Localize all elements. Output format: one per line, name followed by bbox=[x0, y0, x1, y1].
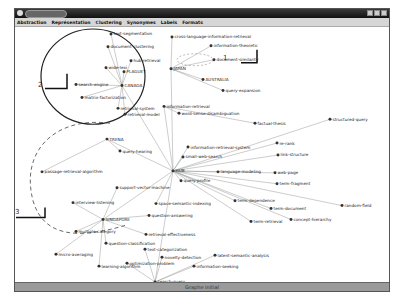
graph-node[interactable]: retrieval-model bbox=[124, 112, 160, 117]
graph-node[interactable]: language-modeling bbox=[217, 169, 262, 174]
graph-node[interactable]: cross-language-information-retrieval bbox=[171, 34, 252, 39]
node-dot-icon[interactable] bbox=[55, 253, 58, 256]
graph-node[interactable]: factual-thesis bbox=[254, 121, 286, 126]
maximize-button[interactable] bbox=[374, 10, 380, 16]
menu-formats[interactable]: Formats bbox=[182, 20, 203, 25]
graph-node[interactable]: micro-averaging bbox=[55, 252, 94, 257]
graph-node[interactable]: search-engine bbox=[75, 82, 109, 87]
graph-node[interactable]: query-hearing bbox=[119, 149, 153, 154]
node-dot-icon[interactable] bbox=[161, 256, 164, 259]
node-dot-icon[interactable] bbox=[163, 105, 166, 108]
graph-node[interactable]: information-theoretic bbox=[210, 43, 259, 48]
menu-abstraction[interactable]: Abstraction bbox=[17, 20, 46, 25]
node-dot-icon[interactable] bbox=[130, 59, 133, 62]
node-dot-icon[interactable] bbox=[222, 89, 225, 92]
node-dot-icon[interactable] bbox=[144, 248, 147, 251]
graph-node[interactable]: word-sense-disambiguation bbox=[178, 111, 240, 116]
node-dot-icon[interactable] bbox=[270, 207, 273, 210]
node-dot-icon[interactable] bbox=[170, 67, 173, 70]
graph-node[interactable]: PLAGUEY bbox=[123, 69, 147, 74]
graph-node[interactable]: JAPAN bbox=[170, 66, 186, 71]
graph-node[interactable]: TRENA bbox=[106, 137, 124, 142]
graph-node[interactable]: small-web-search bbox=[182, 154, 223, 159]
graph-node[interactable]: latent-semantic-analysis bbox=[214, 253, 269, 258]
node-dot-icon[interactable] bbox=[172, 169, 175, 172]
graph-node[interactable]: SINGAPORE bbox=[102, 217, 131, 222]
graph-node[interactable]: question-answering bbox=[148, 213, 194, 218]
graph-node[interactable]: space-semantic-indexing bbox=[155, 201, 212, 206]
node-dot-icon[interactable] bbox=[254, 122, 257, 125]
graph-node[interactable]: information-seeking bbox=[193, 264, 239, 269]
node-dot-icon[interactable] bbox=[180, 179, 183, 182]
node-dot-icon[interactable] bbox=[105, 66, 108, 69]
node-dot-icon[interactable] bbox=[98, 265, 101, 268]
node-dot-icon[interactable] bbox=[126, 262, 129, 265]
close-button[interactable] bbox=[381, 10, 387, 16]
graph-node[interactable]: document-similarity bbox=[213, 57, 259, 62]
node-dot-icon[interactable] bbox=[145, 233, 148, 236]
node-dot-icon[interactable] bbox=[329, 118, 332, 121]
node-dot-icon[interactable] bbox=[75, 230, 78, 233]
menu-labels[interactable]: Labels bbox=[161, 20, 177, 25]
node-dot-icon[interactable] bbox=[213, 58, 216, 61]
node-dot-icon[interactable] bbox=[75, 83, 78, 86]
node-dot-icon[interactable] bbox=[277, 154, 280, 157]
node-dot-icon[interactable] bbox=[41, 170, 44, 173]
node-dot-icon[interactable] bbox=[202, 78, 205, 81]
graph-node[interactable]: text-categorization bbox=[144, 247, 188, 252]
menu-synonymes[interactable]: Synonymes bbox=[127, 20, 156, 25]
menu-clustering[interactable]: Clustering bbox=[96, 20, 122, 25]
graph-node[interactable]: link-structure bbox=[277, 153, 309, 158]
node-dot-icon[interactable] bbox=[276, 142, 279, 145]
graph-node[interactable]: multiple-category bbox=[75, 229, 117, 234]
node-dot-icon[interactable] bbox=[124, 113, 127, 116]
node-dot-icon[interactable] bbox=[102, 218, 105, 221]
graph-node[interactable]: retrieval-effectiveness bbox=[145, 232, 196, 237]
node-dot-icon[interactable] bbox=[121, 84, 124, 87]
node-dot-icon[interactable] bbox=[107, 45, 110, 48]
graph-node[interactable]: term-dependence bbox=[234, 198, 276, 203]
graph-node[interactable]: information-retrieval-system bbox=[187, 145, 251, 150]
node-dot-icon[interactable] bbox=[119, 150, 122, 153]
node-dot-icon[interactable] bbox=[155, 202, 158, 205]
node-dot-icon[interactable] bbox=[81, 96, 84, 99]
graph-canvas[interactable]: 2 1 3 text-segmentationdocument-clusteri… bbox=[15, 27, 389, 283]
graph-node[interactable]: optimization-problem bbox=[126, 261, 175, 266]
node-dot-icon[interactable] bbox=[274, 171, 277, 174]
graph-node[interactable]: matrix-factorization bbox=[81, 95, 127, 100]
graph-node[interactable]: re-rank bbox=[276, 141, 296, 146]
node-dot-icon[interactable] bbox=[290, 218, 293, 221]
node-dot-icon[interactable] bbox=[105, 242, 108, 245]
graph-node[interactable]: document-clustering bbox=[107, 44, 155, 49]
graph-node[interactable]: random-field bbox=[341, 203, 372, 208]
minimize-button[interactable] bbox=[367, 10, 373, 16]
graph-node[interactable]: HUB bbox=[172, 168, 185, 173]
node-dot-icon[interactable] bbox=[234, 199, 237, 202]
graph-node[interactable]: support-vector-machine bbox=[116, 185, 170, 190]
graph-node[interactable]: AUSTRALIA bbox=[202, 77, 229, 82]
node-dot-icon[interactable] bbox=[217, 170, 220, 173]
graph-nodes[interactable]: text-segmentationdocument-clusteringhub-… bbox=[41, 31, 372, 283]
graph-node[interactable]: hub-retrieval bbox=[130, 58, 161, 63]
graph-node[interactable]: passage-retrieval-algorithm bbox=[41, 169, 103, 174]
graph-node[interactable]: term-document bbox=[270, 206, 307, 211]
graph-node[interactable]: structured-query bbox=[329, 117, 369, 122]
node-dot-icon[interactable] bbox=[178, 112, 181, 115]
node-dot-icon[interactable] bbox=[341, 204, 344, 207]
node-dot-icon[interactable] bbox=[210, 44, 213, 47]
node-dot-icon[interactable] bbox=[116, 186, 119, 189]
node-dot-icon[interactable] bbox=[117, 107, 120, 110]
node-dot-icon[interactable] bbox=[171, 35, 174, 38]
node-dot-icon[interactable] bbox=[106, 138, 109, 141]
graph-node[interactable]: wide-lexi bbox=[105, 65, 128, 70]
graph-node[interactable]: query-profile bbox=[180, 178, 211, 183]
graph-node[interactable]: retrieval-system bbox=[117, 106, 155, 111]
graph-node[interactable]: question-classification bbox=[105, 241, 156, 246]
graph-node[interactable]: novelty-detection bbox=[161, 255, 202, 260]
graph-node[interactable]: text-segmentation bbox=[110, 31, 153, 36]
graph-view[interactable]: 2 1 3 text-segmentationdocument-clusteri… bbox=[15, 27, 389, 283]
node-dot-icon[interactable] bbox=[187, 146, 190, 149]
node-dot-icon[interactable] bbox=[110, 32, 113, 35]
node-dot-icon[interactable] bbox=[72, 201, 75, 204]
menu-representation[interactable]: Représentation bbox=[51, 20, 90, 25]
